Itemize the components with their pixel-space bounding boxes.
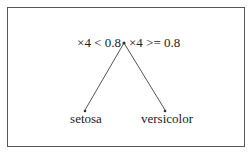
edge-root-to-setosa [85, 43, 124, 110]
leaf-label-setosa: setosa [70, 111, 102, 126]
decision-tree-diagram: ×4 < 0.8 ×4 >= 0.8 setosa versicolor [0, 0, 252, 153]
leaf-label-versicolor: versicolor [141, 111, 194, 126]
split-label-left: ×4 < 0.8 [77, 35, 121, 50]
edge-root-to-versicolor [124, 43, 165, 110]
split-label-right: ×4 >= 0.8 [129, 35, 180, 50]
root-node [122, 41, 125, 44]
